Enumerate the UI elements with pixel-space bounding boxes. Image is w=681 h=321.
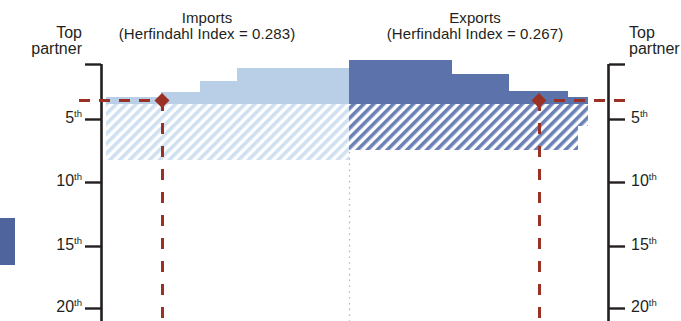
exports-panel-title: Exports (Herfindahl Index = 0.267)	[340, 10, 610, 41]
left-axis-20-suffix: th	[74, 297, 82, 308]
left-axis-top-line2: partner	[10, 41, 82, 57]
right-axis-label-top-partner: Top partner	[629, 25, 681, 58]
left-axis-label-20th: 20th	[10, 299, 82, 315]
left-axis-15-number: 15	[56, 236, 74, 253]
right-axis-20-suffix: th	[649, 297, 657, 308]
right-axis-label-5th: 5th	[631, 110, 681, 126]
left-axis-5-suffix: th	[74, 108, 82, 119]
left-axis-10-suffix: th	[74, 171, 82, 182]
exports-hatched-area	[349, 104, 588, 150]
right-axis-label-15th: 15th	[631, 237, 681, 253]
left-axis-15-suffix: th	[74, 235, 82, 246]
left-axis-label-5th: 5th	[10, 110, 82, 126]
left-axis-label-15th: 15th	[10, 237, 82, 253]
chart-figure: Imports (Herfindahl Index = 0.283) Expor…	[0, 0, 681, 321]
imports-title-line2: (Herfindahl Index = 0.283)	[72, 26, 342, 42]
right-axis-label-10th: 10th	[631, 173, 681, 189]
left-axis-10-number: 10	[56, 172, 74, 189]
right-axis-20-number: 20	[631, 298, 649, 315]
right-axis-15-number: 15	[631, 236, 649, 253]
left-axis-5-number: 5	[65, 109, 74, 126]
imports-step-area	[106, 68, 349, 104]
imports-hatched-area	[106, 104, 349, 160]
imports-panel-title: Imports (Herfindahl Index = 0.283)	[72, 10, 342, 41]
left-axis-label-top-partner: Top partner	[10, 25, 82, 58]
exports-title-line1: Exports	[340, 10, 610, 26]
right-axis-label-20th: 20th	[631, 299, 681, 315]
left-axis-20-number: 20	[56, 298, 74, 315]
right-axis-top-line1: Top	[629, 25, 681, 41]
left-axis	[85, 64, 102, 321]
right-axis-10-number: 10	[631, 172, 649, 189]
left-axis-top-line1: Top	[10, 25, 82, 41]
right-axis-5-number: 5	[631, 109, 640, 126]
right-axis-top-line2: partner	[629, 41, 681, 57]
left-axis-label-10th: 10th	[10, 173, 82, 189]
chart-canvas	[0, 0, 681, 321]
right-axis-5-suffix: th	[640, 108, 648, 119]
right-axis	[609, 64, 626, 321]
right-axis-10-suffix: th	[649, 171, 657, 182]
exports-step-area	[349, 60, 588, 104]
imports-title-line1: Imports	[72, 10, 342, 26]
right-axis-15-suffix: th	[649, 235, 657, 246]
exports-title-line2: (Herfindahl Index = 0.267)	[340, 26, 610, 42]
